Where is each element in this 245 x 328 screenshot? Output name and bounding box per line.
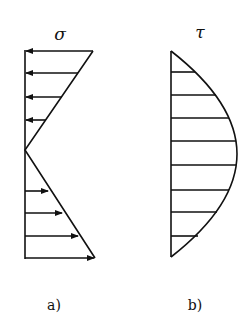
sigma-symbol: σ <box>54 24 66 44</box>
tau-parabola <box>171 51 237 257</box>
tau-diagram <box>171 51 237 257</box>
tau-symbol: τ <box>195 22 205 42</box>
figure-b-label: b) <box>188 297 202 313</box>
sigma-envelope <box>25 51 95 258</box>
sigma-diagram <box>25 50 95 259</box>
stress-diagrams: σ a) τ b) <box>0 0 245 328</box>
figure-a-label: a) <box>47 297 61 313</box>
